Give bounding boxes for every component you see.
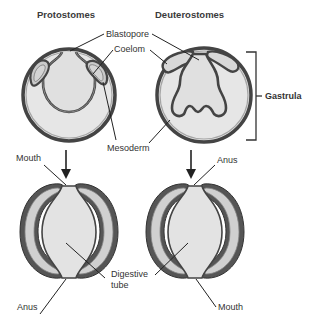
arrow-right-down-icon — [186, 150, 196, 179]
label-digestive-tube-line1: Digestive — [111, 269, 148, 279]
protostome-body-plan — [20, 184, 118, 278]
label-anus-protostome: Anus — [17, 302, 38, 312]
label-mesoderm: Mesoderm — [107, 143, 150, 153]
title-protostomes: Protostomes — [37, 9, 95, 20]
label-digestive-tube-line2: tube — [111, 280, 129, 290]
deuterostome-body-plan — [146, 184, 244, 278]
label-gastrula: Gastrula — [265, 91, 303, 101]
protostome-gastrula — [23, 49, 115, 141]
label-blastopore: Blastopore — [106, 29, 149, 39]
protostome-deuterostome-diagram: Protostomes Deuterostomes Gastrula Blast… — [0, 0, 309, 322]
label-coelom: Coelom — [114, 44, 145, 54]
label-mouth-protostome: Mouth — [16, 153, 41, 163]
arrow-left-down-icon — [61, 150, 71, 179]
deuterostome-gastrula — [157, 48, 251, 142]
label-anus-deuterostome: Anus — [217, 155, 238, 165]
title-deuterostomes: Deuterostomes — [155, 9, 224, 20]
label-mouth-deuterostome: Mouth — [218, 302, 243, 312]
